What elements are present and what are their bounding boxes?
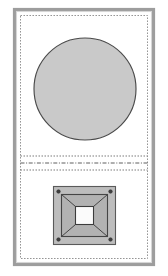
bolt-hole-bottom-right [109, 238, 113, 242]
bolt-hole-bottom-left [57, 238, 61, 242]
drawing-svg [0, 0, 168, 276]
technical-drawing-canvas [0, 0, 168, 276]
square-flange-plate-aperture [76, 207, 94, 225]
circular-plan-element-group [34, 38, 136, 140]
parting-lines-group [21, 156, 148, 170]
bolt-hole-top-left [57, 190, 61, 194]
circular-plan-element [34, 38, 136, 140]
bolt-hole-top-right [109, 190, 113, 194]
square-flange-plate-group [54, 187, 116, 245]
